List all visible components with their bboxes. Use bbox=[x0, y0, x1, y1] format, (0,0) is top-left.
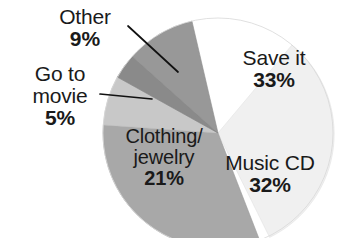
slice-label-other: Other 9% bbox=[36, 6, 134, 50]
slice-label-save-it-name: Save it bbox=[222, 47, 326, 69]
slice-label-go-to-movie-percent: 5% bbox=[8, 107, 112, 129]
slice-label-clothing-jewelry-percent: 21% bbox=[110, 168, 218, 189]
slice-label-clothing-jewelry-line2: jewelry bbox=[110, 147, 218, 168]
slice-label-go-to-movie: Go to movie 5% bbox=[8, 63, 112, 128]
slice-label-music-cd: Music CD 32% bbox=[210, 152, 330, 196]
slice-label-go-to-movie-line1: Go to bbox=[8, 63, 112, 85]
slice-label-save-it: Save it 33% bbox=[222, 47, 326, 91]
slice-label-other-name: Other bbox=[36, 6, 134, 28]
pie-chart-figure: Other 9% Go to movie 5% Save it 33% Musi… bbox=[0, 0, 338, 238]
slice-label-music-cd-name: Music CD bbox=[210, 152, 330, 174]
slice-label-music-cd-percent: 32% bbox=[210, 174, 330, 196]
slice-label-clothing-jewelry: Clothing/ jewelry 21% bbox=[110, 126, 218, 188]
slice-label-go-to-movie-line2: movie bbox=[8, 85, 112, 107]
slice-label-save-it-percent: 33% bbox=[222, 69, 326, 91]
slice-label-clothing-jewelry-line1: Clothing/ bbox=[110, 126, 218, 147]
slice-label-other-percent: 9% bbox=[36, 28, 134, 50]
